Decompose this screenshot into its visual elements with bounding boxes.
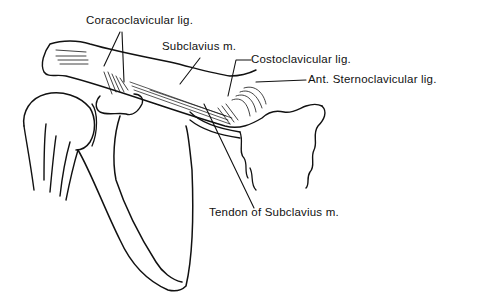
sternum-outline [306, 106, 325, 188]
label-subclavius-muscle: Subclavius m. [162, 40, 236, 52]
rib-curve [190, 112, 240, 138]
shoulder-illustration [0, 0, 478, 303]
anatomy-diagram: Coracoclavicular lig. Subclavius m. Cost… [0, 0, 478, 303]
leader-coracoclavicular [104, 32, 124, 82]
leader-costoclavicular [228, 60, 251, 96]
humerus-shaft [24, 124, 78, 200]
leader-subclavius [180, 58, 200, 84]
sternoclavicular-ligament-fibers [232, 87, 266, 116]
label-ant-sternoclavicular-ligament: Ant. Sternoclavicular lig. [308, 73, 437, 85]
humerus-head [24, 93, 95, 150]
acromioclavicular-fibers [56, 50, 88, 64]
label-tendon-of-subclavius: Tendon of Subclavius m. [209, 206, 339, 218]
first-rib-outline [240, 132, 256, 190]
leader-tendon-subclavius [204, 104, 254, 208]
scapula-outline [78, 116, 193, 291]
label-coracoclavicular-ligament: Coracoclavicular lig. [86, 14, 193, 26]
label-costoclavicular-ligament: Costoclavicular lig. [251, 53, 351, 65]
subclavius-muscle-fibers [130, 82, 232, 124]
leader-ant-sternoclavicular [256, 80, 306, 82]
